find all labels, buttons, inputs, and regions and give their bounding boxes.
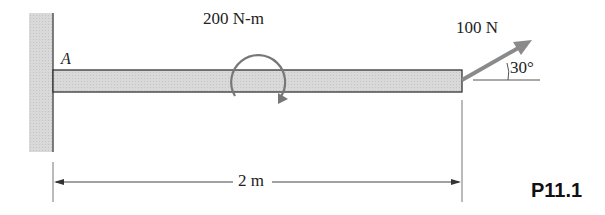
angle-label: 30° <box>510 58 534 78</box>
moment-label: 200 N-m <box>203 9 264 29</box>
beam-diagram <box>0 0 605 215</box>
fixed-wall-support <box>29 13 53 152</box>
force-label: 100 N <box>456 18 498 38</box>
point-a-label: A <box>61 50 71 68</box>
figure-id: P11.1 <box>531 179 582 202</box>
cantilever-beam <box>53 70 462 92</box>
length-label: 2 m <box>238 171 264 191</box>
